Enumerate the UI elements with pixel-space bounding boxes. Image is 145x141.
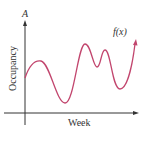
x-axis-arrow-icon <box>133 111 139 115</box>
x-axis-label: Week <box>68 117 91 128</box>
curve-arrow-icon <box>133 39 138 46</box>
function-label: f(x) <box>113 26 127 37</box>
y-axis-label: Occupancy <box>7 39 18 99</box>
y-axis-arrow-icon <box>23 20 27 26</box>
y-axis-top-label: A <box>22 8 28 19</box>
function-curve <box>25 44 135 103</box>
